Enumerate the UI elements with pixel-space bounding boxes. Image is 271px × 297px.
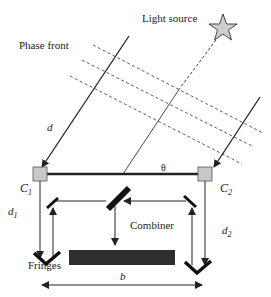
combiner-label: Combiner <box>130 219 174 231</box>
ray-to-c1 <box>42 36 129 167</box>
collector-c1-label: C1 <box>20 181 32 197</box>
left-fold-mirror <box>47 198 58 208</box>
source-ray-center <box>123 88 180 174</box>
ray-to-c2 <box>214 97 260 167</box>
collector-c2-label: C2 <box>220 181 232 197</box>
phase-front-label: Phase front <box>19 39 69 51</box>
delay-d1-label: d1 <box>8 205 18 220</box>
angle-theta-label: θ <box>161 162 166 173</box>
baseline-b-label: b <box>120 270 126 282</box>
light-source-label: Light source <box>142 12 197 24</box>
path-delay-label: d <box>47 121 53 133</box>
source-direction-line <box>180 40 216 88</box>
delay-d2-label: d2 <box>222 224 232 239</box>
fringe-pattern <box>69 250 175 265</box>
collector-c1 <box>33 167 47 181</box>
right-delay-mirror <box>185 261 211 273</box>
phase-front-lines <box>70 45 263 164</box>
interferometer-diagram: Light source Phase front d θ C1 C2 d1 d2… <box>0 0 271 297</box>
combiner-beamsplitter <box>108 188 129 209</box>
fringes-label: Fringes <box>28 259 61 271</box>
light-source-star-icon <box>209 14 237 40</box>
collector-c2 <box>198 167 212 181</box>
